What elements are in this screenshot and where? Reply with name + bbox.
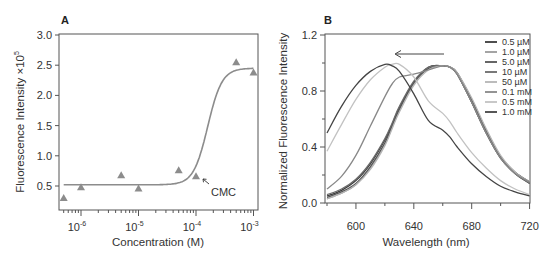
triangle-marker-icon xyxy=(60,194,68,201)
x-tick-label: 720 xyxy=(520,220,538,232)
cmc-label: CMC xyxy=(211,186,236,198)
triangle-marker-icon xyxy=(117,171,125,178)
panel-a: A 0.51.01.52.02.53.0 10-610-510-410-3 CM… xyxy=(13,14,259,248)
y-tick-label: 3.0 xyxy=(37,29,52,41)
y-tick-label: 1.0 xyxy=(37,150,52,162)
panel-b-y-axis-title: Normalized Fluorescence Intensity xyxy=(277,33,289,210)
shift-arrow xyxy=(395,51,444,58)
y-tick-label: 0.0 xyxy=(302,197,317,209)
legend-label: 0.5 µM xyxy=(502,37,530,47)
panel-a-label: A xyxy=(61,14,69,26)
legend-item: 0.5 mM xyxy=(485,97,532,107)
panel-b-legend: 0.5 µM1.0 µM5.0 µM10 µM50 µM0.1 mM0.5 mM… xyxy=(485,37,532,117)
legend-label: 50 µM xyxy=(502,77,527,87)
legend-item: 5.0 µM xyxy=(485,57,530,67)
triangle-marker-icon xyxy=(250,68,258,75)
x-tick-label: 680 xyxy=(463,220,481,232)
y-tick-label: 0.5 xyxy=(37,180,52,192)
legend-label: 0.1 mM xyxy=(502,87,532,97)
triangle-marker-icon xyxy=(175,166,183,173)
panel-a-plot-frame xyxy=(59,34,258,210)
panel-a-fit-curve xyxy=(64,68,254,184)
cmc-annotation: CMC xyxy=(203,179,236,198)
panel-b-x-axis-title: Wavelength (nm) xyxy=(382,236,469,248)
panel-b-spectra xyxy=(327,63,530,198)
panel-b-y-ticks: 0.00.40.81.2 xyxy=(302,29,325,209)
triangle-marker-icon xyxy=(232,58,240,65)
y-tick-label: 2.0 xyxy=(37,89,52,101)
legend-label: 5.0 µM xyxy=(502,57,530,67)
figure: A 0.51.01.52.02.53.0 10-610-510-410-3 CM… xyxy=(0,0,553,263)
panel-b-x-ticks: 600640680720 xyxy=(327,203,539,232)
panel-a-x-ticks: 10-610-510-410-3 xyxy=(64,210,259,233)
panel-a-y-axis-title: Fluorescence Intensity ×105 xyxy=(13,51,26,193)
legend-item: 0.5 µM xyxy=(485,37,530,47)
y-tick-label: 2.5 xyxy=(37,59,52,71)
legend-label: 1.0 µM xyxy=(502,47,530,57)
x-tick-label: 10-5 xyxy=(125,220,144,233)
y-tick-label: 0.8 xyxy=(302,85,317,97)
panel-b-label: B xyxy=(324,14,332,26)
triangle-marker-icon xyxy=(192,172,200,179)
y-tick-label: 0.4 xyxy=(302,141,317,153)
legend-label: 0.5 mM xyxy=(502,97,532,107)
y-tick-label: 1.2 xyxy=(302,29,317,41)
spectrum-line xyxy=(327,66,530,195)
panel-b: B 0.00.40.81.2 600640680720 0.5 µM1.0 µM… xyxy=(277,14,539,248)
x-tick-label: 600 xyxy=(347,220,365,232)
y-tick-label: 1.5 xyxy=(37,120,52,132)
legend-item: 1.0 mM xyxy=(485,107,532,117)
spectrum-line xyxy=(327,64,530,196)
cmc-arrow-icon xyxy=(203,179,209,184)
legend-item: 0.1 mM xyxy=(485,87,532,97)
panel-a-y-ticks: 0.51.01.52.02.53.0 xyxy=(37,29,59,192)
legend-label: 1.0 mM xyxy=(502,107,532,117)
legend-item: 50 µM xyxy=(485,77,527,87)
legend-item: 1.0 µM xyxy=(485,47,530,57)
x-tick-label: 640 xyxy=(405,220,423,232)
spectrum-line xyxy=(327,65,530,196)
panel-a-data-points xyxy=(60,58,258,201)
legend-item: 10 µM xyxy=(485,67,527,77)
x-tick-label: 10-3 xyxy=(240,220,259,233)
x-tick-label: 10-6 xyxy=(68,220,87,233)
legend-label: 10 µM xyxy=(502,67,527,77)
x-tick-label: 10-4 xyxy=(183,220,202,233)
panel-a-x-axis-title: Concentration (M) xyxy=(112,236,204,248)
